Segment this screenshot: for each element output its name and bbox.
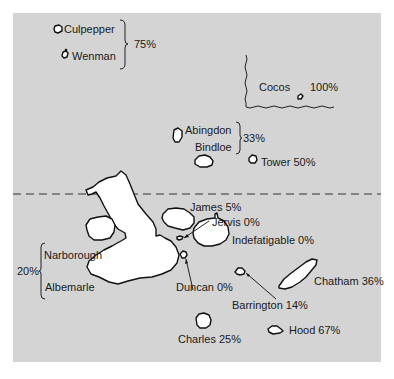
label-albemarle: Albemarle (45, 281, 95, 293)
label-tower: Tower 50% (261, 156, 315, 168)
label-culpepper: Culpepper (64, 23, 115, 35)
bracket-75 (120, 20, 128, 69)
island-jervis (177, 236, 183, 240)
label-cocos: Cocos (259, 81, 290, 93)
island-bindloe (195, 155, 213, 167)
label-group-20: 20% (17, 265, 39, 277)
island-narborough (86, 216, 115, 240)
label-bindloe: Bindloe (195, 141, 232, 153)
label-james: James 5% (190, 201, 241, 213)
pointer-barrington (246, 273, 276, 299)
island-barrington (235, 268, 245, 275)
island-abingdon (173, 128, 182, 142)
label-hood: Hood 67% (289, 324, 340, 336)
label-indefatigable: Indefatigable 0% (232, 234, 314, 246)
label-wenman: Wenman (72, 50, 116, 62)
island-hood (268, 326, 283, 334)
island-map-graphic (0, 0, 394, 379)
label-charles: Charles 25% (178, 333, 241, 345)
island-wenman (62, 51, 68, 58)
label-chatham: Chatham 36% (314, 275, 384, 287)
label-cocos-pct: 100% (310, 81, 338, 93)
label-barrington: Barrington 14% (232, 299, 308, 311)
island-charles (196, 313, 211, 328)
bracket-33 (236, 122, 242, 154)
label-narborough: Narborough (44, 249, 102, 261)
island-chatham (279, 259, 317, 289)
wenman-islet (65, 49, 68, 52)
label-jervis: Jervis 0% (212, 216, 260, 228)
island-duncan (180, 251, 187, 258)
label-group-33: 33% (243, 132, 265, 144)
label-abingdon: Abingdon (185, 124, 232, 136)
label-group-75: 75% (134, 38, 156, 50)
island-cocos (298, 94, 303, 99)
island-culpepper (54, 25, 62, 33)
label-duncan: Duncan 0% (176, 281, 233, 293)
island-tower (249, 155, 257, 163)
